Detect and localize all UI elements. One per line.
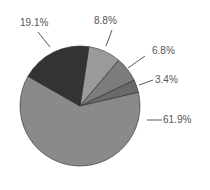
- pie-slices: [20, 46, 140, 166]
- leader-line: [139, 80, 153, 85]
- slice-label: 61.9%: [163, 114, 191, 125]
- leader-line: [128, 56, 145, 68]
- pie-chart: 8.8%6.8%3.4%61.9%19.1%: [0, 0, 210, 190]
- leader-line: [38, 32, 50, 47]
- slice-label: 6.8%: [152, 45, 175, 56]
- leader-line: [106, 30, 112, 46]
- slice-label: 8.8%: [94, 15, 117, 26]
- slice-label: 19.1%: [20, 17, 48, 28]
- slice-label: 3.4%: [155, 74, 178, 85]
